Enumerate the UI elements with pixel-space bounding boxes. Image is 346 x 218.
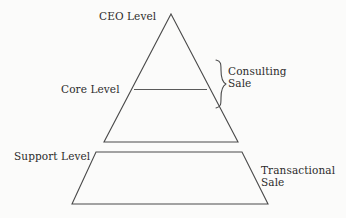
label-support-level: Support Level [14,151,90,163]
annotation-consulting-line2: Sale [228,77,251,89]
support-trapezoid-shape [72,152,268,204]
pyramid-triangle-shape [104,14,238,142]
annotation-consulting-sale: Consulting Sale [228,66,290,90]
annotation-transactional-line2: Sale [261,176,284,188]
label-core-level: Core Level [61,84,120,96]
curly-brace-icon [216,60,226,108]
annotation-transactional-sale: Transactional Sale [261,165,343,189]
label-ceo-level: CEO Level [99,11,156,23]
pyramid-diagram: CEO Level Core Level Support Level Consu… [0,0,346,218]
annotation-transactional-line1: Transactional [261,164,335,176]
annotation-consulting-line1: Consulting [228,65,287,77]
